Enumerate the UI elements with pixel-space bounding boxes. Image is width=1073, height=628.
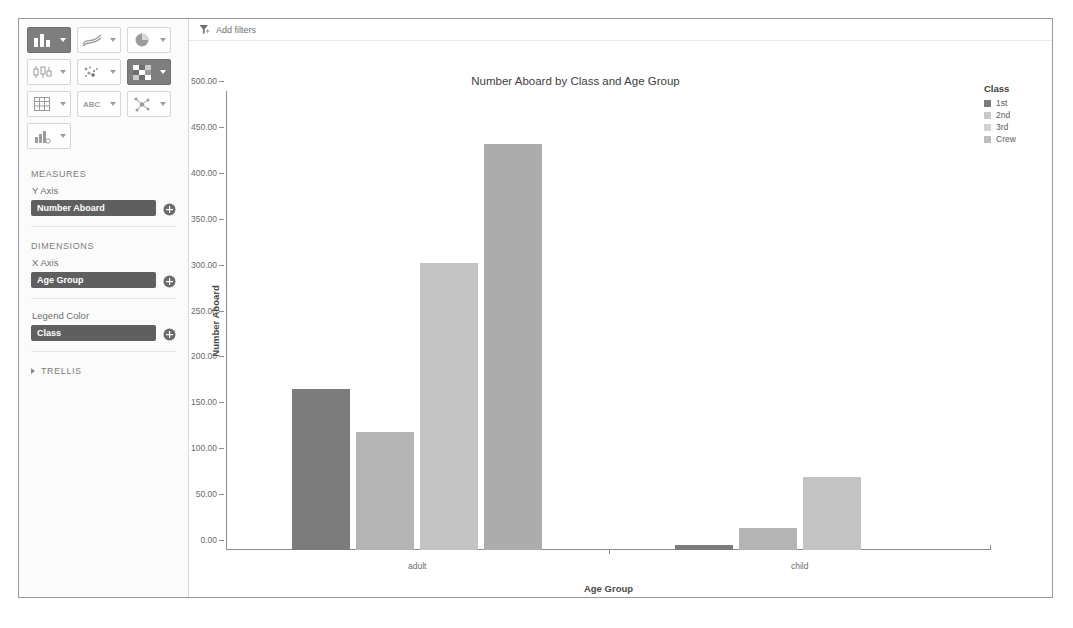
svg-text:ABC: ABC bbox=[83, 100, 101, 109]
chevron-down-icon[interactable] bbox=[60, 70, 66, 74]
y-axis-field-row: Number Aboard bbox=[31, 200, 176, 216]
legend-item-1st[interactable]: 1st bbox=[984, 98, 1044, 108]
application-window: ABC MEASURES Y Axis Number Aboard DIMENS… bbox=[18, 18, 1053, 598]
filter-toolbar: Add filters bbox=[189, 19, 1052, 41]
add-circle-icon[interactable] bbox=[163, 274, 176, 287]
abc-text-icon: ABC bbox=[81, 95, 103, 113]
bar-adult-1st[interactable] bbox=[292, 389, 350, 550]
chart-type-button-bar[interactable] bbox=[27, 27, 71, 53]
y-tick-label: 400.00 bbox=[191, 168, 226, 178]
bar-child-1st[interactable] bbox=[675, 545, 733, 551]
bar-adult-Crew[interactable] bbox=[484, 144, 542, 550]
chart-type-button-network[interactable] bbox=[127, 91, 171, 117]
legend-color-pill[interactable]: Class bbox=[31, 325, 156, 341]
network-graph-icon bbox=[131, 95, 153, 113]
line-chart-icon bbox=[81, 31, 103, 49]
bar-chart-icon bbox=[31, 31, 53, 49]
x-group-tick bbox=[609, 550, 610, 554]
chart-type-selector: ABC bbox=[19, 19, 189, 155]
chart-type-button-pie[interactable] bbox=[127, 27, 171, 53]
chart-title-text: Number Aboard by Class and Age Group bbox=[471, 75, 679, 87]
chevron-down-icon[interactable] bbox=[160, 38, 166, 42]
legend-swatch bbox=[984, 124, 991, 131]
chevron-down-icon[interactable] bbox=[110, 70, 116, 74]
dimensions-section-title: DIMENSIONS bbox=[31, 241, 176, 251]
trellis-section-toggle[interactable]: TRELLIS bbox=[19, 366, 188, 376]
bar-adult-3rd[interactable] bbox=[420, 263, 478, 550]
chart-container: Number Aboard by Class and Age Group Num… bbox=[189, 41, 1052, 597]
filter-icon bbox=[199, 21, 210, 39]
combo-chart-icon bbox=[31, 127, 53, 145]
x-axis-pill[interactable]: Age Group bbox=[31, 272, 156, 288]
y-axis-pill[interactable]: Number Aboard bbox=[31, 200, 156, 216]
chart-type-button-table[interactable] bbox=[27, 91, 71, 117]
x-axis-title: Age Group bbox=[584, 583, 633, 594]
chevron-down-icon[interactable] bbox=[60, 102, 66, 106]
chevron-right-icon bbox=[31, 368, 35, 374]
heat-map-icon bbox=[131, 63, 153, 81]
chevron-down-icon[interactable] bbox=[160, 70, 166, 74]
chart-type-button-line[interactable] bbox=[77, 27, 121, 53]
y-tick-label: 500.00 bbox=[191, 76, 226, 86]
legend-swatch bbox=[984, 112, 991, 119]
add-circle-icon[interactable] bbox=[163, 202, 176, 215]
chevron-down-icon[interactable] bbox=[60, 38, 66, 42]
add-filters-button[interactable]: Add filters bbox=[216, 25, 256, 35]
chart-type-button-combo[interactable] bbox=[27, 123, 71, 149]
legend-swatch bbox=[984, 100, 991, 107]
table-grid-icon bbox=[31, 95, 53, 113]
box-plot-icon bbox=[31, 63, 53, 81]
chevron-down-icon[interactable] bbox=[110, 38, 116, 42]
chevron-down-icon[interactable] bbox=[60, 134, 66, 138]
chart-type-button-text[interactable]: ABC bbox=[77, 91, 121, 117]
add-circle-icon[interactable] bbox=[163, 327, 176, 340]
x-tick-label: child bbox=[791, 561, 808, 571]
x-tick-label: adult bbox=[408, 561, 426, 571]
legend-item-3rd[interactable]: 3rd bbox=[984, 122, 1044, 132]
chart-type-button-heatmap[interactable] bbox=[127, 59, 171, 85]
legend-items: 1st2nd3rdCrew bbox=[984, 98, 1044, 144]
measures-section-title: MEASURES bbox=[31, 169, 176, 179]
pie-chart-icon bbox=[131, 31, 153, 49]
legend-label: 3rd bbox=[996, 122, 1008, 132]
legend-title: Class bbox=[984, 83, 1044, 94]
shelf-divider bbox=[31, 351, 176, 352]
bar-adult-2nd[interactable] bbox=[356, 432, 414, 550]
legend-item-Crew[interactable]: Crew bbox=[984, 134, 1044, 144]
bar-child-2nd[interactable] bbox=[739, 528, 797, 550]
legend-color-field-row: Class bbox=[31, 325, 176, 341]
y-tick-label: 100.00 bbox=[191, 443, 226, 453]
chevron-down-icon[interactable] bbox=[160, 102, 166, 106]
legend-swatch bbox=[984, 136, 991, 143]
y-tick-label: 150.00 bbox=[191, 397, 226, 407]
scatter-plot-icon bbox=[81, 63, 103, 81]
shelf-divider bbox=[31, 298, 176, 299]
shelf-divider bbox=[31, 226, 176, 227]
bar-child-3rd[interactable] bbox=[803, 477, 861, 550]
chart-type-button-scatter[interactable] bbox=[77, 59, 121, 85]
y-tick-label: 300.00 bbox=[191, 260, 226, 270]
chart-type-button-boxplot[interactable] bbox=[27, 59, 71, 85]
legend-label: 2nd bbox=[996, 110, 1010, 120]
x-axis-field-label: X Axis bbox=[32, 257, 176, 268]
y-tick-label: 0.00 bbox=[200, 535, 226, 545]
main-panel: Add filters Number Aboard by Class and A… bbox=[189, 19, 1052, 597]
y-tick-label: 450.00 bbox=[191, 122, 226, 132]
left-sidebar: ABC MEASURES Y Axis Number Aboard DIMENS… bbox=[19, 19, 189, 597]
y-tick-label: 200.00 bbox=[191, 351, 226, 361]
plot-area: Number Aboard Age Group 0.0050.00100.001… bbox=[226, 91, 991, 550]
y-axis-title: Number Aboard bbox=[210, 285, 221, 356]
dimensions-shelf: DIMENSIONS X Axis Age Group Legend Color… bbox=[19, 241, 188, 352]
y-tick-label: 250.00 bbox=[191, 306, 226, 316]
legend-item-2nd[interactable]: 2nd bbox=[984, 110, 1044, 120]
y-tick-label: 50.00 bbox=[196, 489, 226, 499]
measures-shelf: MEASURES Y Axis Number Aboard bbox=[19, 169, 188, 227]
chevron-down-icon[interactable] bbox=[110, 102, 116, 106]
y-tick-label: 350.00 bbox=[191, 214, 226, 224]
y-axis-line bbox=[226, 91, 227, 550]
chart-legend: Class 1st2nd3rdCrew bbox=[984, 83, 1044, 146]
y-axis-field-label: Y Axis bbox=[32, 185, 176, 196]
legend-label: 1st bbox=[996, 98, 1007, 108]
legend-color-field-label: Legend Color bbox=[32, 310, 176, 321]
trellis-section-title: TRELLIS bbox=[41, 366, 82, 376]
